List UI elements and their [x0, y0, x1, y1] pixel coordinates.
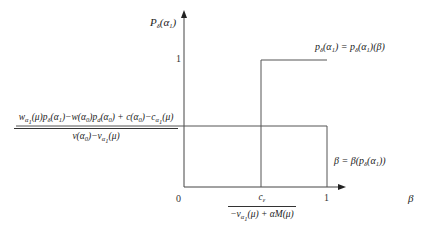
x-axis-label: β	[408, 193, 413, 204]
x-tick-one: 1	[324, 193, 329, 203]
x-axis-arrow-icon	[338, 184, 346, 190]
y-axis-arrow-icon	[181, 10, 187, 18]
y-axis-label-close: )	[172, 16, 176, 28]
y-threshold-fraction: wα1(μ)pδ(α1)−w(α0)pd(α0) + c(α0)−cα1(μ) …	[14, 113, 178, 144]
y-axis-label-arg: (α	[160, 16, 169, 28]
x-threshold-numerator: cε	[228, 193, 296, 207]
x-tick-zero: 0	[176, 194, 181, 204]
beta-curve-label: β = β(pδ(α1)) β = β(p_δ(α₁))	[334, 156, 386, 168]
p-delta-curve-label: pδ(α1) = pδ(α1)(β) p_δ(α₁) = p_δ(α₁)(β)	[315, 42, 385, 54]
y-threshold-numerator: wα1(μ)pδ(α1)−w(α0)pd(α0) + c(α0)−cα1(μ)	[14, 113, 178, 129]
y-threshold-denominator: v(α0)−vα1(μ)	[14, 129, 178, 145]
y-axis-label-main: P	[150, 16, 157, 28]
x-threshold-denominator: −vα1(μ) + αM(μ)	[228, 207, 296, 223]
x-threshold-fraction: cε −vα1(μ) + αM(μ) c_ε −v_{α1}(μ) + αM(μ…	[228, 193, 296, 222]
y-axis-label: Pδ(α1)	[150, 17, 176, 30]
y-tick-one: 1	[176, 54, 181, 64]
